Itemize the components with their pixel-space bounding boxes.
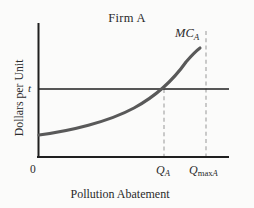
mc-label-main: MC bbox=[175, 26, 194, 40]
q-max-subscript-a: A bbox=[213, 168, 218, 178]
tax-rate-tick-label: t bbox=[28, 83, 31, 94]
mc-a-curve bbox=[39, 48, 200, 135]
q-a-subscript: A bbox=[165, 168, 170, 178]
q-a-main: Q bbox=[156, 163, 165, 177]
q-max-main: Q bbox=[189, 163, 198, 177]
origin-tick-label: 0 bbox=[30, 164, 36, 176]
q-max-subscript-max: max bbox=[198, 168, 213, 178]
y-axis-title: Dollars per Unit bbox=[14, 43, 26, 153]
mc-a-curve-label: MCA bbox=[175, 27, 199, 42]
q-max-a-tick-label: QmaxA bbox=[189, 164, 218, 178]
economics-figure-firm-a: Firm A Dollars per Unit Pollution Abatem… bbox=[0, 0, 254, 208]
mc-label-subscript: A bbox=[194, 32, 200, 42]
chart-title: Firm A bbox=[0, 12, 254, 25]
q-a-tick-label: QA bbox=[156, 164, 170, 178]
x-axis-title: Pollution Abatement bbox=[0, 188, 240, 200]
